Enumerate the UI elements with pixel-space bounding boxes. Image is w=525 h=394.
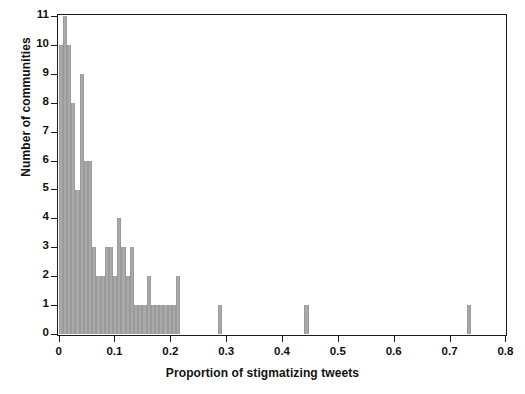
x-axis-title: Proportion of stigmatizing tweets	[0, 366, 525, 380]
histogram-bar	[218, 305, 222, 334]
y-axis-tick-label: 2	[16, 268, 49, 280]
y-axis-tick	[51, 189, 57, 190]
x-axis-tick	[170, 336, 171, 342]
y-axis-tick	[51, 16, 57, 17]
y-axis-tick-label: 6	[16, 153, 49, 165]
x-axis-tick-label: 0.4	[260, 345, 304, 357]
x-axis-tick	[59, 336, 60, 342]
y-axis-tick	[51, 103, 57, 104]
x-axis-tick-label: 0.2	[148, 345, 192, 357]
x-axis-tick	[394, 336, 395, 342]
y-axis-tick-label: 8	[16, 95, 49, 107]
y-axis-tick	[51, 334, 57, 335]
bars-layer	[57, 14, 507, 336]
y-axis-tick	[51, 276, 57, 277]
x-axis-tick-label: 0.3	[204, 345, 248, 357]
y-axis-tick	[51, 132, 57, 133]
x-axis-tick	[450, 336, 451, 342]
x-axis-tick	[282, 336, 283, 342]
y-axis-tick	[51, 218, 57, 219]
y-axis-tick	[51, 161, 57, 162]
x-axis-tick-label: 0	[37, 345, 81, 357]
y-axis-tick	[51, 74, 57, 75]
histogram-bar	[304, 305, 308, 334]
x-axis-tick	[338, 336, 339, 342]
x-axis-tick-label: 0.1	[92, 345, 136, 357]
y-axis-tick-label: 7	[16, 124, 49, 136]
y-axis-tick	[51, 247, 57, 248]
histogram-bar	[467, 305, 471, 334]
y-axis-tick-label: 10	[16, 37, 49, 49]
x-axis-tick-label: 0.6	[372, 345, 416, 357]
x-axis-tick	[114, 336, 115, 342]
y-axis-tick-label: 5	[16, 181, 49, 193]
y-axis-tick	[51, 45, 57, 46]
x-axis-tick-label: 0.8	[483, 345, 525, 357]
y-axis-tick-label: 11	[16, 8, 49, 20]
histogram-figure: Number of communities Proportion of stig…	[0, 0, 525, 394]
y-axis-tick-label: 3	[16, 239, 49, 251]
x-axis-tick	[226, 336, 227, 342]
y-axis-tick	[51, 305, 57, 306]
x-axis-tick	[505, 336, 506, 342]
histogram-bar	[176, 276, 180, 334]
x-axis-tick-label: 0.7	[428, 345, 472, 357]
y-axis-tick-label: 0	[16, 326, 49, 338]
x-axis-tick-label: 0.5	[316, 345, 360, 357]
y-axis-tick-label: 1	[16, 297, 49, 309]
y-axis-tick-label: 4	[16, 210, 49, 222]
y-axis-tick-label: 9	[16, 66, 49, 78]
